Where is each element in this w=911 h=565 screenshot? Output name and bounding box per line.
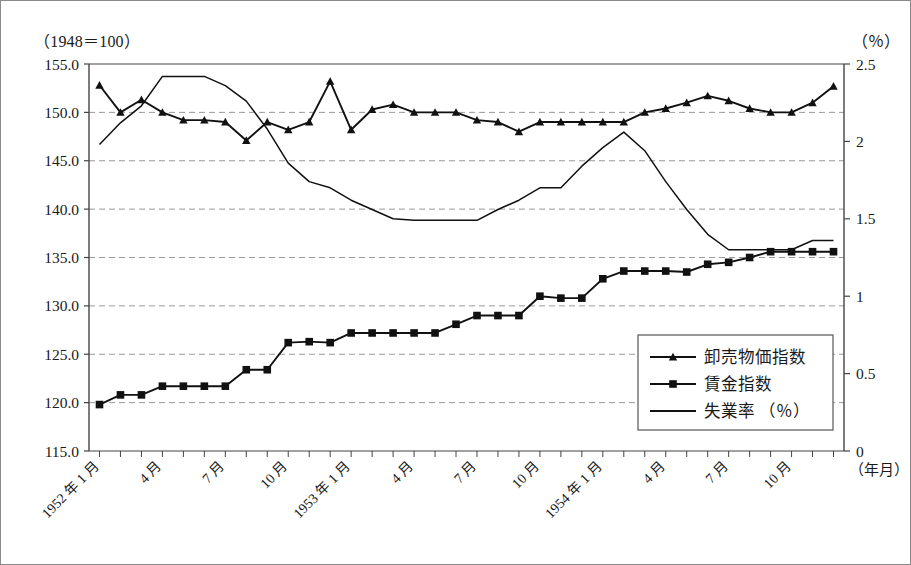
data-point-marker-square xyxy=(96,401,104,409)
data-point-marker-triangle xyxy=(829,82,837,90)
data-point-marker-square xyxy=(347,329,355,337)
x-axis-tick-label: 4 月 xyxy=(640,459,668,487)
y-axis-tick-label-left: 135.0 xyxy=(44,249,79,266)
data-point-marker-square xyxy=(662,267,670,275)
data-point-marker-square xyxy=(452,320,460,328)
y-axis-tick-label-left: 125.0 xyxy=(44,346,79,363)
data-point-marker-triangle xyxy=(326,77,334,85)
x-axis-tick-label: 10 月 xyxy=(257,459,290,492)
data-point-marker-square xyxy=(578,294,586,302)
data-point-marker-square xyxy=(494,312,502,320)
y-axis-tick-label-right: 1 xyxy=(856,288,864,305)
data-point-marker-square xyxy=(305,338,313,346)
legend-label: 卸売物価指数 xyxy=(704,348,806,367)
data-point-marker-square xyxy=(410,329,418,337)
y-axis-tick-label-right: 0.5 xyxy=(856,365,876,382)
economic-indicators-line-chart: 115.0120.0125.0130.0135.0140.0145.0150.0… xyxy=(1,1,911,565)
y-axis-tick-label-right: 2 xyxy=(856,133,864,150)
x-axis-tick-label: 7 月 xyxy=(451,459,479,487)
series-line xyxy=(99,81,833,140)
chart-page: （1948＝100） （％） 115.0120.0125.0130.0135.0… xyxy=(0,0,911,565)
data-point-marker-square xyxy=(368,329,376,337)
data-point-marker-square xyxy=(284,339,292,347)
data-point-marker-square xyxy=(159,382,167,390)
y-axis-tick-label-left: 140.0 xyxy=(44,201,79,218)
data-point-marker-square xyxy=(180,382,188,390)
data-point-marker-square xyxy=(263,366,271,374)
y-axis-tick-label-left: 130.0 xyxy=(44,297,79,314)
y-axis-tick-label-right: 2.5 xyxy=(856,56,876,73)
x-axis-tick-label: 4 月 xyxy=(137,459,165,487)
legend-label: 賃金指数 xyxy=(704,375,772,394)
x-axis-tick-label: 10 月 xyxy=(509,459,542,492)
data-point-marker-square xyxy=(389,329,397,337)
x-axis-tick-label: 7 月 xyxy=(703,459,731,487)
data-point-marker-square xyxy=(222,382,230,390)
data-point-marker-square xyxy=(809,248,817,256)
data-point-marker-square xyxy=(201,382,209,390)
data-point-marker-square xyxy=(725,259,733,267)
y-axis-tick-label-left: 115.0 xyxy=(45,443,80,460)
series-triangle xyxy=(95,77,837,144)
y-axis-tick-label-right: 1.5 xyxy=(856,210,876,227)
series-line xyxy=(99,76,833,249)
data-point-marker-square xyxy=(138,391,146,399)
data-point-marker-square xyxy=(431,329,439,337)
data-point-marker-square xyxy=(242,366,250,374)
data-point-marker-square xyxy=(830,248,838,256)
y-axis-tick-label-left: 155.0 xyxy=(44,56,79,73)
data-point-marker-square xyxy=(515,312,523,320)
data-point-marker-square xyxy=(620,267,628,275)
chart-canvas: 115.0120.0125.0130.0135.0140.0145.0150.0… xyxy=(1,1,911,565)
data-point-marker-square xyxy=(641,267,649,275)
data-point-marker-square xyxy=(746,254,754,262)
data-point-marker-square xyxy=(536,292,544,300)
x-axis-tick-label: 1954 年 1 月 xyxy=(542,459,605,522)
series-none xyxy=(99,76,833,249)
x-axis-unit-label: （年月） xyxy=(849,462,909,478)
legend-label: 失業率 （％） xyxy=(704,402,810,421)
data-point-marker-triangle xyxy=(305,118,313,126)
data-point-marker-square xyxy=(669,380,677,388)
x-axis-tick-label: 1952 年 1 月 xyxy=(39,459,102,522)
y-axis-tick-label-left: 120.0 xyxy=(44,394,79,411)
data-point-marker-triangle xyxy=(703,92,711,100)
data-point-marker-triangle xyxy=(95,81,103,89)
x-axis-tick-label: 4 月 xyxy=(388,459,416,487)
data-point-marker-square xyxy=(599,275,607,283)
data-point-marker-square xyxy=(326,339,334,347)
x-axis-tick-label: 10 月 xyxy=(761,459,794,492)
y-axis-tick-label-left: 150.0 xyxy=(44,104,79,121)
data-point-marker-square xyxy=(704,260,712,268)
x-axis-tick-label: 7 月 xyxy=(200,459,228,487)
data-point-marker-square xyxy=(473,312,481,320)
data-point-marker-triangle xyxy=(389,100,397,108)
y-axis-tick-label-right: 0 xyxy=(856,443,864,460)
data-point-marker-square xyxy=(683,268,691,276)
data-point-marker-square xyxy=(117,391,125,399)
x-axis-tick-label: 1953 年 1 月 xyxy=(291,459,354,522)
data-point-marker-square xyxy=(557,294,565,302)
y-axis-tick-label-left: 145.0 xyxy=(44,152,79,169)
